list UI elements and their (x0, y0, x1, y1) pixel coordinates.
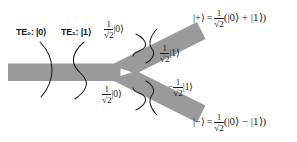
equation-plus-state: |+⟩= 1 √2 (|0⟩ + |1⟩) (193, 9, 266, 29)
fraction-plus: 1 √2 (214, 9, 223, 29)
fraction-denominator: √2 (104, 30, 113, 40)
ket-upper-inner: |1⟩ (169, 48, 180, 58)
branch-label-lower-outer: 1 √2 |0⟩ (102, 85, 122, 105)
branch-label-lower-inner: − 1 √2 |1⟩ (168, 78, 193, 98)
minus-state-body: (|0⟩ − |1⟩) (224, 115, 266, 127)
fraction-denominator: √2 (214, 123, 223, 133)
fraction-denominator: √2 (102, 95, 111, 105)
minus-state-lhs: |−⟩ (193, 116, 205, 127)
fraction-upper-inner: 1 √2 (160, 44, 169, 64)
fraction-lower-outer: 1 √2 (102, 85, 111, 105)
fraction-numerator: 1 (173, 78, 182, 89)
equation-minus-state: |−⟩= 1 √2 (|0⟩ − |1⟩) (193, 113, 266, 133)
fraction-numerator: 1 (160, 44, 169, 55)
fraction-numerator: 1 (214, 113, 223, 124)
plus-state-lhs: |+⟩ (193, 12, 205, 23)
fraction-denominator: √2 (173, 88, 182, 98)
te0-text: TE₀: |0⟩ (16, 27, 47, 37)
fraction-denominator: √2 (160, 54, 169, 64)
fraction-denominator: √2 (214, 19, 223, 29)
te1-text: TE₁: |1⟩ (61, 27, 92, 37)
branch-label-upper-inner: 1 √2 |1⟩ (160, 44, 180, 64)
fraction-numerator: 1 (104, 20, 113, 31)
fraction-numerator: 1 (102, 85, 111, 96)
fraction-minus: 1 √2 (214, 113, 223, 133)
ket-lower-inner: |1⟩ (183, 82, 194, 92)
input-label-te1: TE₁: |1⟩ (61, 28, 92, 37)
photonic-y-junction-figure: TE₀: |0⟩ TE₁: |1⟩ 1 √2 |0⟩ 1 √2 |1⟩ 1 √2… (0, 0, 297, 142)
ket-upper-outer: |0⟩ (113, 24, 124, 34)
plus-state-body: (|0⟩ + |1⟩) (224, 11, 266, 23)
fraction-lower-inner: 1 √2 (173, 78, 182, 98)
plus-equals: = (207, 12, 213, 23)
input-label-te0: TE₀: |0⟩ (16, 28, 47, 37)
minus-equals: = (207, 116, 213, 127)
branch-label-upper-outer: 1 √2 |0⟩ (104, 20, 124, 40)
ket-lower-outer: |0⟩ (111, 89, 122, 99)
fraction-upper-outer: 1 √2 (104, 20, 113, 40)
fraction-numerator: 1 (214, 9, 223, 20)
